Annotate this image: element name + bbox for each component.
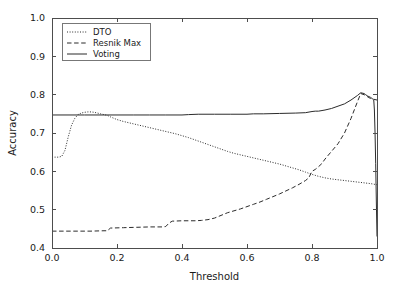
chart-figure: 0.00.20.40.60.81.00.40.50.60.70.80.91.0T…: [0, 0, 403, 295]
x-tick-label: 0.8: [304, 252, 319, 263]
y-tick-label: 1.0: [30, 12, 45, 23]
series-line-dto: [52, 112, 377, 185]
series-layer: [52, 93, 377, 237]
x-tick-label: 1.0: [369, 252, 384, 263]
x-tick-label: 0.2: [109, 252, 124, 263]
y-tick-label: 0.6: [30, 166, 45, 177]
accuracy-vs-threshold-chart: 0.00.20.40.60.81.00.40.50.60.70.80.91.0T…: [0, 0, 403, 295]
x-tick-label: 0.4: [174, 252, 189, 263]
legend-label-dto: DTO: [93, 27, 112, 37]
legend-label-voting: Voting: [93, 49, 120, 59]
y-axis-title: Accuracy: [7, 110, 18, 156]
y-tick-label: 0.9: [30, 51, 45, 62]
legend-label-resnik-max: Resnik Max: [93, 38, 141, 48]
chart-legend: DTOResnik MaxVoting: [62, 23, 150, 60]
x-tick-label: 0.0: [44, 252, 59, 263]
y-tick-label: 0.8: [30, 89, 45, 100]
x-axis-title: Threshold: [189, 271, 239, 282]
y-tick-label: 0.7: [30, 127, 45, 138]
y-tick-label: 0.5: [30, 204, 45, 215]
x-tick-label: 0.6: [239, 252, 254, 263]
y-tick-label: 0.4: [30, 242, 45, 253]
